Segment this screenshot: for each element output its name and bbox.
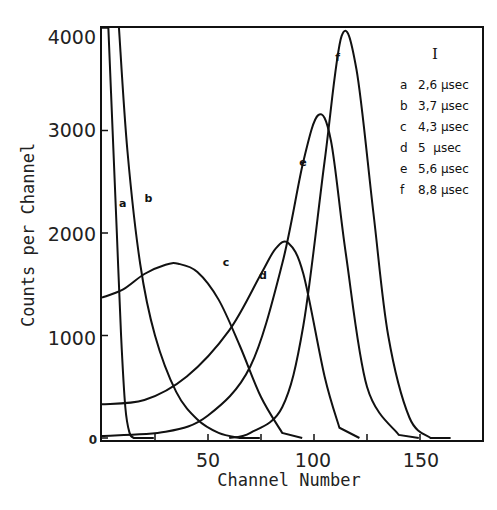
y-axis-title: Counts per Channel [18,143,38,327]
curve-label-c: c [223,256,230,269]
legend-value-d: 5 μsec [418,141,461,155]
y-tick-2000: 2000 [48,223,96,245]
y-tick-4000: 4000 [48,26,96,48]
legend: I a 2,6 μsec b 3,7 μsec c 4,3 μsec d 5 μ… [400,45,469,197]
y-tick-0: 0 [89,433,97,447]
axis-ticks [101,28,420,441]
x-tick-50: 50 [196,449,220,471]
curve-a [108,28,153,438]
curve-label-a: a [119,197,126,210]
y-tick-1000: 1000 [48,327,96,349]
legend-key-a: a [400,78,407,92]
legend-value-a: 2,6 μsec [418,78,469,92]
legend-key-d: d [400,141,408,155]
legend-key-e: e [400,162,407,176]
curve-label-e: e [299,156,306,169]
curve-label-b: b [144,192,152,205]
legend-key-f: f [400,183,405,197]
curve-labels: abcdef [119,51,340,282]
legend-value-f: 8,8 μsec [418,183,469,197]
legend-value-c: 4,3 μsec [418,120,469,134]
curve-b [119,28,260,438]
legend-value-e: 5,6 μsec [418,162,469,176]
x-tick-150: 150 [403,449,439,471]
y-tick-3000: 3000 [48,119,96,141]
x-tick-100: 100 [295,449,331,471]
chart-canvas: abcdef 4000 3000 2000 1000 0 50 100 150 … [0,0,497,510]
curve-label-f: f [335,51,340,64]
curve-label-d: d [259,269,267,282]
curves [102,28,451,438]
legend-value-b: 3,7 μsec [418,99,469,113]
legend-title: I [432,45,438,63]
legend-key-c: c [400,120,407,134]
x-axis-title: Channel Number [217,470,360,490]
legend-key-b: b [400,99,408,113]
curve-c [102,263,302,438]
